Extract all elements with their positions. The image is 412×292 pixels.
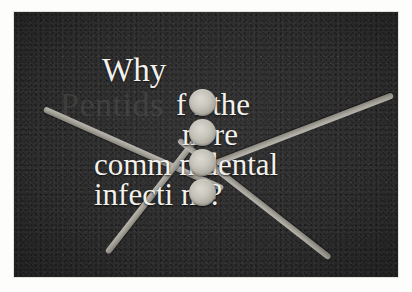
poster-image-plate: Pentids Why f r the m re comm n dental i…: [14, 12, 398, 277]
tablet-icon-3: [189, 149, 216, 176]
advertisement-poster: Pentids Why f r the m re comm n dental i…: [0, 0, 412, 292]
tablet-icon-2: [189, 119, 216, 146]
tablet-stack-group: [14, 12, 398, 277]
tablet-icon-4: [189, 179, 216, 206]
tablet-icon-1: [189, 89, 216, 116]
